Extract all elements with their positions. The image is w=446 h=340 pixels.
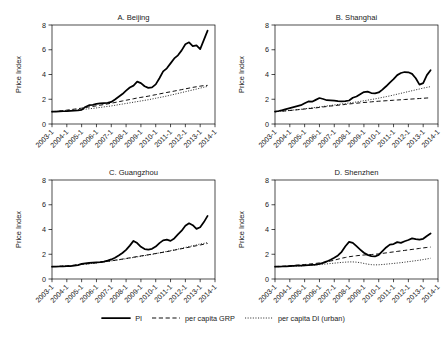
panel-title: C. Guangzhou: [109, 168, 158, 177]
plot-guangzhou: C. GuangzhouPrice Index024682003-12004-1…: [0, 165, 223, 320]
plot-beijing: A. BeijingPrice Index024682003-12004-120…: [0, 10, 223, 165]
series-per-capita-grp: [52, 85, 208, 111]
y-tick-label: 8: [42, 21, 46, 30]
panel-title: B. Shanghai: [336, 13, 378, 22]
series-pi: [275, 70, 431, 111]
y-axis-label: Price Index: [14, 211, 23, 248]
y-tick-label: 6: [42, 45, 46, 54]
y-tick-label: 0: [265, 275, 269, 284]
y-tick-label: 6: [265, 45, 269, 54]
series-per-capita-grp: [275, 98, 431, 112]
legend-label: PI: [135, 314, 142, 323]
y-tick-label: 2: [265, 250, 269, 259]
legend-swatch-dashed: [151, 314, 181, 322]
panel-title: A. Beijing: [117, 13, 149, 22]
y-tick-label: 4: [265, 70, 269, 79]
panel-title: D. Shenzhen: [335, 168, 379, 177]
legend-swatch-solid-thick: [101, 314, 131, 322]
y-axis-label: Price Index: [237, 211, 246, 248]
plot-frame: [52, 180, 215, 279]
series-per-capita-grp: [52, 243, 208, 266]
panel-beijing: A. BeijingPrice Index024682003-12004-120…: [0, 10, 223, 165]
legend-item-pi: PI: [101, 314, 142, 323]
figure-root: A. BeijingPrice Index024682003-12004-120…: [0, 0, 446, 340]
y-tick-label: 4: [265, 225, 269, 234]
y-tick-label: 0: [42, 120, 46, 129]
y-tick-label: 6: [265, 200, 269, 209]
legend-label: per capita DI (urban): [278, 314, 345, 323]
y-tick-label: 2: [42, 95, 46, 104]
y-tick-label: 8: [265, 21, 269, 30]
y-tick-label: 4: [42, 225, 46, 234]
y-tick-label: 0: [42, 275, 46, 284]
series-per-capita-grp: [275, 247, 431, 267]
legend-label: per capita GRP: [185, 314, 235, 323]
panel-shanghai: B. ShanghaiPrice Index024682003-12004-12…: [223, 10, 446, 165]
series-pi: [52, 216, 208, 267]
series-per-capita-di-urban: [52, 86, 208, 111]
legend-swatch-dotted: [244, 314, 274, 322]
y-tick-label: 8: [42, 176, 46, 185]
plot-frame: [275, 180, 438, 279]
y-tick-label: 0: [265, 120, 269, 129]
y-tick-label: 4: [42, 70, 46, 79]
plot-shanghai: B. ShanghaiPrice Index024682003-12004-12…: [223, 10, 446, 165]
y-tick-label: 2: [42, 250, 46, 259]
y-tick-label: 6: [42, 200, 46, 209]
legend-item-di: per capita DI (urban): [244, 314, 345, 323]
panel-shenzhen: D. ShenzhenPrice Index024682003-12004-12…: [223, 165, 446, 320]
plot-shenzhen: D. ShenzhenPrice Index024682003-12004-12…: [223, 165, 446, 320]
y-tick-label: 2: [265, 95, 269, 104]
y-axis-label: Price Index: [14, 56, 23, 93]
y-tick-label: 8: [265, 176, 269, 185]
chart-legend: PIper capita GRPper capita DI (urban): [0, 308, 446, 328]
legend-item-grp: per capita GRP: [151, 314, 235, 323]
panel-guangzhou: C. GuangzhouPrice Index024682003-12004-1…: [0, 165, 223, 320]
y-axis-label: Price Index: [237, 56, 246, 93]
